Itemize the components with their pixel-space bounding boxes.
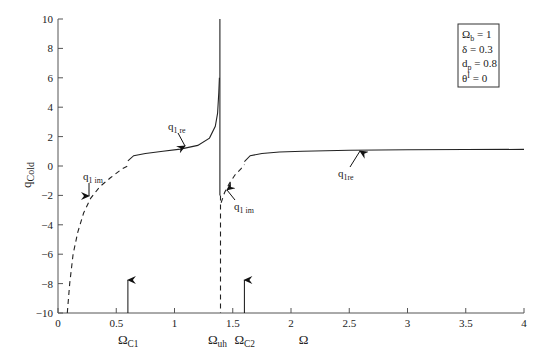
x-tick-label: 3 xyxy=(405,317,411,329)
parameter-line: δ = 0.3 xyxy=(462,43,493,55)
x-tick-label: 1 xyxy=(172,317,178,329)
x-tick-label: 2 xyxy=(288,317,294,329)
annotation-q1re: q1re xyxy=(338,167,354,182)
x-tick-label: 0.5 xyxy=(109,317,123,329)
y-tick-label: 0 xyxy=(48,160,54,172)
y-tick-label: −4 xyxy=(41,219,53,231)
chart: 00.511.522.533.541086420−2−4−6−8−10qCold… xyxy=(0,0,544,361)
y-tick-label: −2 xyxy=(41,189,53,201)
parameters-box: Ωb = 1δ = 0.3dp = 0.8θI = 0 xyxy=(458,24,499,87)
critical-frequency-label: ΩC2 xyxy=(234,332,255,349)
curves xyxy=(67,19,524,313)
y-tick-label: −8 xyxy=(41,278,53,290)
y-tick-label: 10 xyxy=(42,13,54,25)
x-axis-label: Ω xyxy=(299,332,309,347)
series-line xyxy=(67,166,128,313)
y-tick-label: 6 xyxy=(48,72,54,84)
y-tick-label: 4 xyxy=(48,101,54,113)
y-tick-label: −6 xyxy=(41,248,53,260)
x-tick-label: 3.5 xyxy=(459,317,473,329)
parameter-line: θI = 0 xyxy=(462,71,488,84)
y-tick-label: 2 xyxy=(48,131,54,143)
annotation-q1-im: q1 im xyxy=(83,170,104,185)
series-line xyxy=(128,78,219,161)
y-tick-label: 8 xyxy=(48,42,54,54)
annotations: ΩC1ΩC2Ωuhq1 req1 imq1 imq1re xyxy=(83,120,360,349)
annotation-q1-im: q1 im xyxy=(234,200,255,215)
x-tick-label: 0 xyxy=(55,317,61,329)
x-tick-label: 2.5 xyxy=(342,317,356,329)
annotation-q1-re: q1 re xyxy=(168,120,186,135)
y-axis-label: qCold xyxy=(19,162,36,188)
series-line xyxy=(244,149,524,161)
y-tick-label: −10 xyxy=(36,307,54,319)
x-tick-label: 1.5 xyxy=(226,317,240,329)
upper-hybrid-label: Ωuh xyxy=(208,332,227,349)
x-tick-label: 4 xyxy=(521,317,527,329)
critical-frequency-label: ΩC1 xyxy=(118,332,139,349)
